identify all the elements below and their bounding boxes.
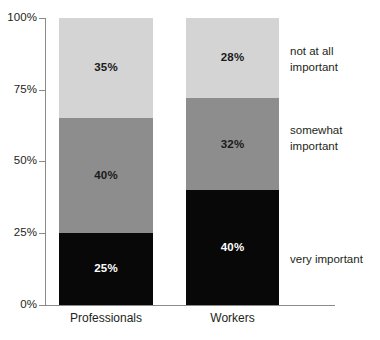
stacked-bar-chart: 100% 75% 50% 25% 0% 35% 40% 25% 28% 32% … (0, 0, 380, 340)
x-axis-label-professionals: Professionals (59, 312, 153, 325)
x-axis-line (45, 305, 335, 306)
y-tick-mark-0 (39, 305, 45, 306)
y-tick-label-100: 100% (7, 12, 37, 24)
legend-item-not-at-all-important: not at all important (290, 44, 380, 75)
bar-value-label: 32% (221, 139, 245, 151)
legend-label-line1: somewhat (290, 123, 380, 139)
bar-segment-professionals-somewhat-important: 40% (59, 118, 153, 233)
bar-value-label: 28% (221, 52, 245, 64)
y-tick-mark-25 (39, 233, 45, 234)
legend-label-line2: important (290, 60, 380, 76)
bar-value-label: 35% (94, 62, 118, 74)
y-tick-mark-50 (39, 161, 45, 162)
bar-segment-workers-somewhat-important: 32% (186, 98, 279, 190)
legend-label-line1: very important (290, 252, 380, 268)
y-tick-mark-75 (39, 90, 45, 91)
y-tick-label-0: 0% (20, 299, 37, 311)
bar-segment-professionals-not-at-all-important: 35% (59, 18, 153, 118)
bar-professionals: 35% 40% 25% (59, 18, 153, 305)
legend-label-line1: not at all (290, 44, 380, 60)
y-tick-label-25: 25% (14, 227, 37, 239)
bar-value-label: 25% (94, 263, 118, 275)
y-axis-line (45, 18, 46, 306)
y-tick-mark-100 (39, 18, 45, 19)
bar-value-label: 40% (221, 242, 245, 254)
bar-segment-professionals-very-important: 25% (59, 233, 153, 305)
y-tick-label-75: 75% (14, 84, 37, 96)
y-tick-label-50: 50% (14, 155, 37, 167)
bar-workers: 28% 32% 40% (186, 18, 279, 305)
legend-item-very-important: very important (290, 252, 380, 268)
bar-value-label: 40% (94, 170, 118, 182)
x-axis-label-workers: Workers (186, 312, 279, 325)
legend-item-somewhat-important: somewhat important (290, 123, 380, 154)
bar-segment-workers-not-at-all-important: 28% (186, 18, 279, 98)
legend-label-line2: important (290, 139, 380, 155)
bar-segment-workers-very-important: 40% (186, 190, 279, 305)
